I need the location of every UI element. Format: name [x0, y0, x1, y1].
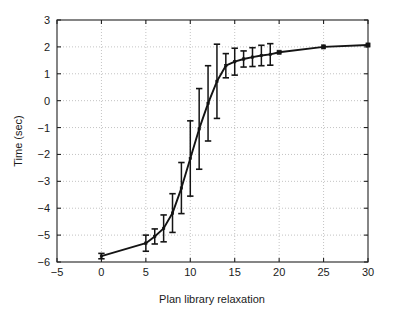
data-point-marker	[234, 60, 236, 62]
data-point-marker	[189, 157, 191, 159]
x-tick-label: 15	[229, 266, 241, 278]
data-point-marker	[225, 65, 227, 67]
data-point-marker	[216, 80, 218, 82]
data-point-marker	[251, 56, 253, 58]
y-tick-label: −6	[37, 256, 50, 268]
data-point-marker	[154, 235, 156, 237]
data-point-marker	[321, 45, 325, 49]
data-point-marker	[145, 242, 147, 244]
data-point-marker	[269, 53, 271, 55]
time-vs-plan-library-relaxation-chart: −5051015202530 −6−5−4−3−2−10123 Plan lib…	[0, 0, 393, 317]
y-tick-label: 2	[44, 41, 50, 53]
x-tick-label: 25	[317, 266, 329, 278]
x-tick-label: 20	[273, 266, 285, 278]
x-axis-title: Plan library relaxation	[159, 293, 265, 305]
data-point-marker	[162, 227, 164, 229]
data-point-marker	[242, 58, 244, 60]
y-tick-label: 0	[44, 95, 50, 107]
y-tick-label: 3	[44, 14, 50, 26]
chart-figure: −5051015202530 −6−5−4−3−2−10123 Plan lib…	[0, 0, 393, 317]
data-point-marker	[100, 255, 102, 257]
y-tick-label: 1	[44, 68, 50, 80]
y-tick-label: −3	[37, 175, 50, 187]
data-point-marker	[366, 43, 370, 47]
x-tick-label: 0	[98, 266, 104, 278]
x-tick-label: −5	[51, 266, 64, 278]
data-point-marker	[260, 54, 262, 56]
x-tick-label: 10	[184, 266, 196, 278]
data-point-marker	[198, 128, 200, 130]
y-axis-title: Time (sec)	[12, 115, 24, 167]
data-point-marker	[171, 212, 173, 214]
data-point-marker	[180, 187, 182, 189]
data-point-marker	[207, 102, 209, 104]
data-point-marker	[277, 50, 281, 54]
x-tick-label: 30	[362, 266, 374, 278]
x-tick-label: 5	[143, 266, 149, 278]
y-tick-label: −2	[37, 148, 50, 160]
y-tick-label: −5	[37, 229, 50, 241]
y-tick-label: −1	[37, 122, 50, 134]
y-tick-label: −4	[37, 202, 50, 214]
